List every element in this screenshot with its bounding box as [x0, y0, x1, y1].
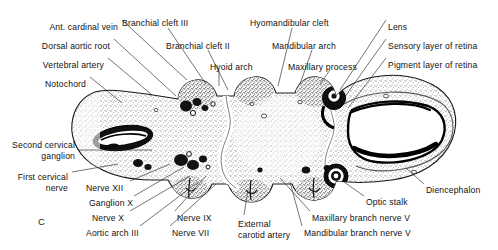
label-first-cervical-nerve: First cervicalnerve	[18, 172, 68, 193]
label-first-cervical-nerve-line1: First cervical	[18, 172, 68, 183]
label-nerve-x: Nerve X	[92, 213, 124, 224]
label-ganglion-x: Ganglion X	[89, 198, 133, 209]
label-mandibular-branch-nerve-v: Mandibular branch nerve V	[304, 228, 411, 239]
figure-letter: C	[38, 216, 45, 227]
label-notochord: Notochord	[45, 79, 86, 90]
label-hyoid-arch: Hyoid arch	[210, 62, 253, 73]
label-maxillary-branch-nerve-v: Maxillary branch nerve V	[312, 213, 410, 224]
embryo-body	[72, 72, 456, 207]
label-branchial-cleft-iii: Branchial cleft III	[122, 18, 188, 29]
diencephalon-cavity	[348, 101, 445, 162]
label-sensory-layer-of-retina: Sensory layer of retina	[388, 41, 477, 52]
label-optic-stalk: Optic stalk	[366, 197, 408, 208]
label-branchial-cleft-ii: Branchial cleft II	[166, 41, 230, 52]
label-second-cervical-ganglion-line1: Second cervical	[12, 140, 75, 151]
optic-stalk-coil	[324, 164, 348, 188]
label-maxillary-process: Maxillary process	[288, 62, 357, 73]
label-external-carotid-artery-line2: carotid artery	[238, 230, 290, 241]
label-pigment-layer-of-retina: Pigment layer of retina	[388, 60, 477, 71]
label-external-carotid-artery-line1: External	[238, 219, 290, 230]
label-second-cervical-ganglion-line2: ganglion	[12, 151, 75, 162]
label-aortic-arch-iii: Aortic arch III	[86, 228, 139, 239]
label-hyomandibular-cleft: Hyomandibular cleft	[250, 18, 329, 29]
label-ant-cardinal-vein: Ant. cardinal vein	[49, 22, 118, 33]
label-lens: Lens	[388, 22, 407, 33]
label-nerve-xii: Nerve XII	[86, 183, 123, 194]
label-dorsal-aortic-root: Dorsal aortic root	[42, 41, 110, 52]
label-mandibular-arch: Mandibular arch	[272, 41, 336, 52]
label-nerve-ix: Nerve IX	[177, 213, 212, 224]
embryo-section-illustration	[0, 0, 498, 250]
label-second-cervical-ganglion: Second cervicalganglion	[12, 140, 75, 161]
label-external-carotid-artery: Externalcarotid artery	[238, 219, 290, 240]
label-vertebral-artery: Vertebral artery	[43, 60, 104, 71]
label-first-cervical-nerve-line2: nerve	[18, 183, 68, 194]
label-diencephalon: Diencephalon	[426, 185, 480, 196]
label-nerve-vii: Nerve VII	[172, 228, 209, 239]
anatomical-figure: Ant. cardinal veinDorsal aortic rootVert…	[0, 0, 498, 250]
